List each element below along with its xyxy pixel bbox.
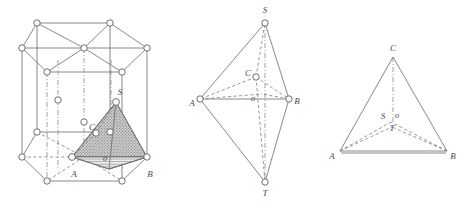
tetra-edges: [340, 57, 447, 153]
label-hex-A: A: [70, 169, 77, 179]
label-bip-T: T: [262, 188, 268, 198]
label-tet-B: B: [450, 151, 456, 161]
bipyramid-edges: [200, 23, 289, 182]
label-hex-B: B: [147, 169, 153, 179]
label-bip-C: C: [245, 68, 252, 78]
label-bip-sigma: σ: [251, 93, 256, 103]
label-tet-A: A: [328, 151, 335, 161]
panel-tetrahedron: C A B S T σ: [328, 43, 456, 161]
label-tet-sigma: σ: [395, 110, 400, 120]
label-bip-S: S: [263, 5, 268, 15]
panel-bipyramid: S T A B C σ: [188, 5, 300, 198]
label-tet-S: S: [381, 111, 386, 121]
bipyramid-atoms: [197, 20, 292, 185]
diagram-canvas: A B S C σ: [0, 0, 459, 209]
label-tet-C: C: [390, 43, 397, 53]
label-hex-S: S: [118, 87, 123, 97]
label-hex-sigma: σ: [103, 153, 108, 163]
figure-root: A B S C σ: [0, 0, 459, 209]
label-bip-B: B: [294, 96, 300, 106]
panel-hexagonal-prism: A B S C σ: [19, 20, 153, 184]
label-bip-A: A: [188, 98, 195, 108]
label-hex-C: C: [89, 122, 96, 132]
